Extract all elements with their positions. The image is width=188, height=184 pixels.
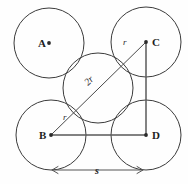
vertex-label-b: B [39, 129, 47, 141]
center-dot-a [47, 41, 51, 45]
center-dot-d [144, 133, 148, 137]
radius-label-near-c: r [123, 37, 127, 47]
diameter-label-2r: 2r [82, 73, 96, 87]
center-dot-b [49, 133, 53, 137]
geometry-figure: A B C D r r 2r s [0, 0, 188, 184]
figure-canvas: A B C D r r 2r s [0, 0, 188, 184]
radius-label-near-b: r [63, 112, 67, 122]
vertex-label-d: D [152, 129, 160, 141]
dimension-label-s: s [94, 165, 99, 176]
center-dot-c [144, 40, 148, 44]
vertex-label-a: A [38, 37, 46, 49]
vertex-label-c: C [152, 36, 160, 48]
